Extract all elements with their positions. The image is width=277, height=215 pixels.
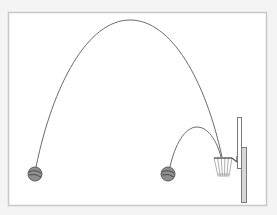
- diagram-canvas: [0, 0, 277, 215]
- basketball-icon: [28, 167, 42, 181]
- basketball-icon: [161, 167, 175, 181]
- basketball-trajectory-diagram: [0, 0, 277, 215]
- hoop-pole: [242, 148, 247, 203]
- backboard: [238, 118, 242, 169]
- diagram-frame: [9, 13, 267, 206]
